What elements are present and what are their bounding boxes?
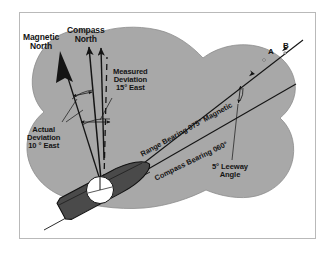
- label-point-b: B: [283, 42, 289, 50]
- label-point-a: A: [268, 48, 274, 56]
- label-compass-north: Compass North: [67, 26, 105, 44]
- point-b-marker: [284, 52, 286, 54]
- point-a-marker: [263, 59, 265, 61]
- label-actual-deviation: Actual Deviation 10 ° East: [27, 126, 60, 150]
- label-magnetic-north: Magnetic North: [23, 33, 59, 51]
- diagram-page: Magnetic North Compass North Measured De…: [0, 0, 335, 259]
- label-measured-deviation: Measured Deviation 15° East: [113, 68, 148, 92]
- label-leeway-angle: 5° Leeway Angle: [212, 163, 248, 179]
